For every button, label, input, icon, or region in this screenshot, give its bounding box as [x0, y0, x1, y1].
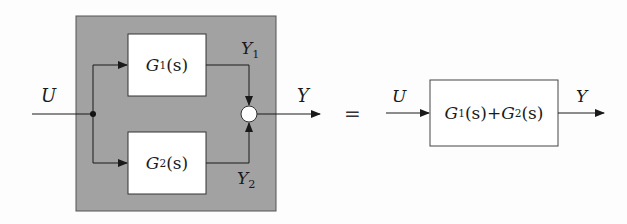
g1-sub: 1	[159, 60, 166, 71]
label-y-output: Y	[297, 87, 309, 105]
label-u: U	[41, 87, 56, 105]
g2-arg: (s)	[166, 155, 188, 172]
block-g2-label: G2(s)	[128, 132, 206, 194]
g1-name: G	[146, 57, 160, 74]
equiv-block-label: G1(s)+G2(s)	[430, 80, 558, 146]
summing-junction	[241, 106, 257, 122]
g1-arg: (s)	[166, 57, 188, 74]
label-y2: Y2	[237, 170, 255, 190]
g2-sub: 2	[159, 158, 166, 169]
g2-name: G	[146, 155, 160, 172]
label-y1: Y1	[241, 40, 259, 60]
block-diagram: U G1(s) G2(s) Y1 Y2 Y = U G1(s)+G2(s) Y	[0, 0, 627, 224]
equiv-label-u: U	[392, 88, 406, 105]
equiv-label-y: Y	[576, 88, 587, 105]
equals-sign: =	[344, 104, 361, 124]
plus-operator: +	[487, 105, 501, 122]
block-g1-label: G1(s)	[128, 34, 206, 96]
